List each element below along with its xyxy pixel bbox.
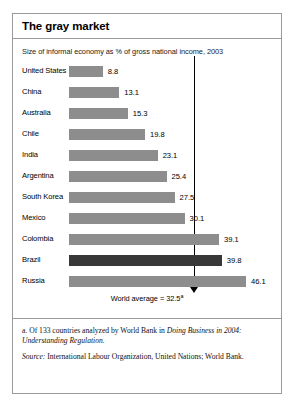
bar-row-label: China [22,87,41,96]
bar-row: South Korea27.5 [13,189,281,210]
bar-row: China13.1 [13,84,281,105]
bar [69,276,246,287]
bar-value-label: 46.1 [251,277,266,286]
bar-value-label: 27.5 [180,193,195,202]
bar-row-label: United States [22,66,66,75]
bar [69,87,119,98]
source-label: Source: [22,352,45,361]
bar [69,66,103,77]
bar-row-label: Brazil [22,255,40,264]
bar-value-label: 39.1 [224,235,239,244]
bar-row: United States8.8 [13,63,281,84]
chart-card: The gray market Size of informal economy… [12,13,282,394]
bar-row: Argentina25.4 [13,168,281,189]
bar-row-label: Australia [22,108,51,117]
world-average-text: World average = 32.5 [111,294,181,303]
bar-row-label: Argentina [22,171,54,180]
footnote-a-prefix: a. Of 133 countries analyzed by World Ba… [22,326,167,335]
bar-value-label: 39.8 [227,256,242,265]
bar-value-label: 19.8 [150,130,165,139]
chart-subtitle: Size of informal economy as % of gross n… [13,39,281,63]
bar-value-label: 15.3 [133,109,148,118]
bar-row: India23.1 [13,147,281,168]
bar-row: Colombia39.1 [13,231,281,252]
bar-value-label: 8.8 [108,67,118,76]
bar-row-label: Colombia [22,234,53,243]
footnotes: a. Of 133 countries analyzed by World Ba… [13,319,281,362]
bar-row: Brazil39.8 [13,252,281,273]
bar [69,108,128,119]
bar-row-label: Chile [22,129,39,138]
bar-row-label: Mexico [22,213,45,222]
footnote-source: Source: International Labour Organizatio… [22,352,272,362]
chart-title: The gray market [22,20,272,33]
bar-row-label: India [22,150,38,159]
bar-chart-plot: World average = 32.5a United States8.8Ch… [13,63,281,318]
bar-row: Mexico30.1 [13,210,281,231]
bar [69,192,175,203]
footnote-a: a. Of 133 countries analyzed by World Ba… [22,326,272,345]
bar-row: Chile19.8 [13,126,281,147]
bar-row-label: Russia [22,276,45,285]
chart-title-zone: The gray market [13,14,281,38]
bar-value-label: 13.1 [124,88,139,97]
bar-value-label: 30.1 [190,214,205,223]
world-average-label: World average = 32.5a [13,294,281,303]
bar-value-label: 25.4 [172,172,187,181]
bar [69,150,158,161]
bar-row: Australia15.3 [13,105,281,126]
bar [69,213,185,224]
bar-row-label: South Korea [22,192,63,201]
bar [69,234,219,245]
bar [69,129,145,140]
bar-value-label: 23.1 [163,151,178,160]
bar-row: Russia46.1 [13,273,281,294]
source-text: International Labour Organization, Unite… [45,352,243,361]
bar [69,255,222,266]
bar [69,171,167,182]
